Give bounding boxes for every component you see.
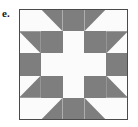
quilt-block (19, 9, 128, 120)
quilt-cell-square (41, 76, 63, 98)
figure-container: e. (0, 0, 138, 127)
quilt-block-svg (19, 9, 128, 120)
figure-item-label: e. (2, 7, 10, 19)
quilt-cell-square (41, 31, 63, 53)
quilt-cell-square (106, 53, 128, 75)
quilt-cell-square (63, 98, 85, 120)
quilt-cell-square (19, 53, 41, 75)
quilt-cell-square (63, 9, 85, 31)
quilt-cell-square (84, 31, 106, 53)
quilt-cell-square (84, 76, 106, 98)
